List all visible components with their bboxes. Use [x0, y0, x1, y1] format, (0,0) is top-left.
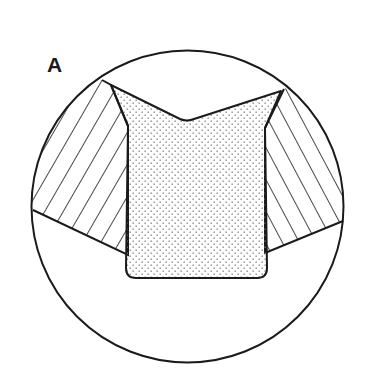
central-stippled-shape [111, 85, 281, 278]
diagram-figure: A [0, 0, 372, 374]
diagram-canvas [0, 0, 372, 374]
right-hatched-region [265, 60, 360, 253]
